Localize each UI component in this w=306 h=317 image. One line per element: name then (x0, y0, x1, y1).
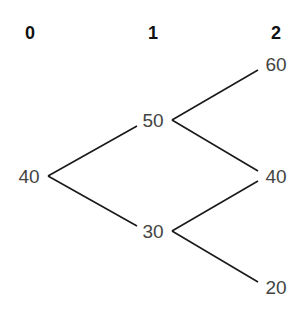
time-step-0-label: 0 (25, 23, 35, 43)
node-t1-up: 50 (142, 110, 163, 131)
binomial-tree-diagram: 0 1 2 40 50 30 60 40 20 (0, 0, 306, 317)
edge-t0-to-down (48, 176, 137, 226)
node-t0: 40 (18, 166, 39, 187)
node-t2-dd: 20 (265, 277, 286, 298)
edge-up-to-ud (172, 120, 258, 171)
edge-down-to-dd (172, 231, 258, 282)
node-t2-ud: 40 (265, 166, 286, 187)
node-t1-down: 30 (142, 221, 163, 242)
node-t2-uu: 60 (265, 54, 286, 75)
time-step-2-label: 2 (271, 23, 281, 43)
edge-down-to-ud (172, 181, 258, 231)
edge-up-to-uu (172, 70, 258, 120)
time-step-1-label: 1 (148, 23, 158, 43)
edge-t0-to-up (48, 126, 137, 176)
